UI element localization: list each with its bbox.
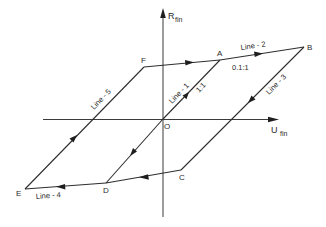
vertical-axis: R fin (160, 8, 182, 217)
r-axis-label-main: R (168, 11, 175, 21)
line-5-arrow-icon (70, 135, 78, 143)
point-a-label: A (217, 49, 223, 58)
line-2-arrow-icon (254, 51, 263, 57)
line-2-label: Line - 2 (240, 40, 266, 52)
line-4-arrow-icon (56, 184, 65, 190)
c-to-d-arrow-icon (139, 174, 149, 179)
line-5-label: Line - 5 (89, 87, 113, 111)
line-4: Line - 4 (25, 183, 106, 201)
line-3-label: Line - 3 (264, 72, 288, 96)
line-a-to-d (106, 119, 163, 183)
point-e-label: E (16, 189, 21, 198)
point-f-label: F (141, 56, 146, 65)
axis-arrow-right-icon (268, 117, 279, 122)
point-c-label: C (179, 173, 185, 182)
f-to-a-arrow-icon (185, 60, 194, 66)
line-2-ratio: 0.1:1 (232, 63, 249, 72)
line-1-ratio: 1:1 (194, 81, 208, 95)
line-5: Line - 5 (25, 67, 144, 189)
line-4-label: Line - 4 (36, 190, 62, 201)
line-2: Line - 2 0.1:1 (144, 40, 304, 72)
point-d-label: D (103, 186, 109, 195)
u-axis-label-sub: fin (280, 130, 288, 137)
u-axis-label-main: U (271, 125, 278, 135)
r-axis-label-sub: fin (175, 16, 183, 23)
point-labels: F A B C D E O (16, 43, 312, 198)
line-1: Line - 1 1:1 (163, 60, 220, 119)
line-c-to-d (106, 170, 181, 183)
axis-arrow-up-icon (160, 8, 166, 18)
point-b-label: B (307, 43, 312, 52)
origin-label: O (164, 122, 170, 131)
hysteresis-diagram: R fin U fin Line - 1 1:1 Line - 2 0.1:1 … (0, 0, 326, 227)
